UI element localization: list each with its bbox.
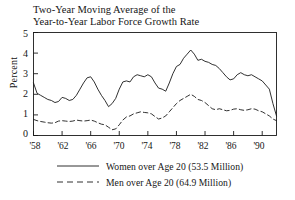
chart-title: Two-Year Moving Average of the Year-to-Y… — [33, 4, 263, 27]
y-tick-label-2: 2 — [14, 88, 28, 99]
chart-figure: Two-Year Moving Average of the Year-to-Y… — [0, 0, 295, 200]
x-tick-label-70: '70 — [106, 141, 132, 151]
series-line-men — [34, 94, 277, 129]
axes-frame — [34, 33, 277, 136]
x-tick-label-78: '78 — [162, 141, 188, 151]
x-tick-label-58: '58 — [22, 141, 48, 151]
y-tick-label-5: 5 — [14, 28, 28, 39]
plot-border — [34, 33, 277, 136]
y-tick-label-1: 1 — [14, 108, 28, 119]
y-tick-label-0: 0 — [14, 128, 28, 139]
x-tick-label-82: '82 — [190, 141, 216, 151]
x-tick-label-66: '66 — [78, 141, 104, 151]
plot-area — [0, 0, 295, 200]
x-tick-label-62: '62 — [50, 141, 76, 151]
x-tick-label-86: '86 — [218, 141, 244, 151]
y-tick-label-3: 3 — [14, 68, 28, 79]
series-line-women — [34, 50, 277, 116]
x-tick-marks — [34, 131, 263, 136]
y-tick-label-4: 4 — [14, 48, 28, 59]
chart-title-line-2: Year-to-Year Labor Force Growth Rate — [33, 16, 263, 28]
x-tick-label-74: '74 — [134, 141, 160, 151]
x-tick-label-90: '90 — [246, 141, 272, 151]
chart-title-line-1: Two-Year Moving Average of the — [33, 4, 263, 16]
